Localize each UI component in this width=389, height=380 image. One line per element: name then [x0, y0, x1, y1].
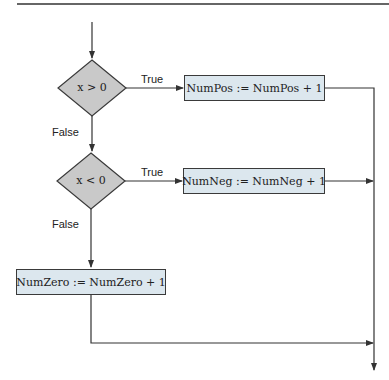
merge-arrow-3 [91, 294, 373, 343]
false-label-2: False [52, 218, 79, 230]
merge-line-main [325, 88, 374, 370]
decision-1-condition: x > 0 [58, 81, 126, 94]
true-label-1: True [141, 73, 163, 85]
process-box-numzero: NumZero := NumZero + 1 [16, 269, 166, 295]
flowchart-canvas: x > 0 x < 0 True False True False NumPos… [0, 0, 389, 380]
decision-2-condition: x < 0 [57, 174, 125, 187]
false-label-1: False [52, 126, 79, 138]
process-box-numpos: NumPos := NumPos + 1 [184, 75, 325, 101]
true-label-2: True [141, 166, 163, 178]
process-box-numneg: NumNeg := NumNeg + 1 [183, 168, 325, 194]
